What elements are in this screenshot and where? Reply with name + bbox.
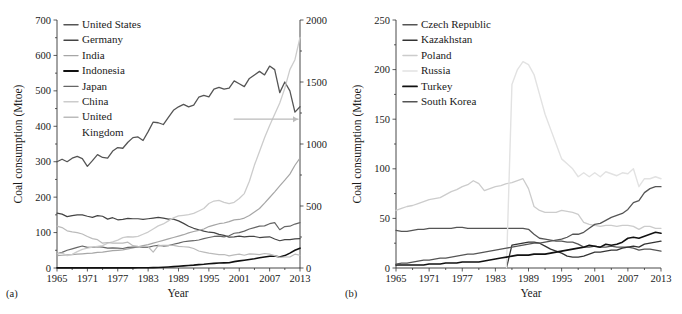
y-right-tick-label: 2000 [306,15,327,26]
series-line-india [57,158,300,255]
chart-a-svg: 0100200300400500600700050010001500200019… [0,0,341,314]
x-tick-label: 2007 [259,273,280,284]
chart-b-svg: 0501001502002501965197119771983198919952… [341,0,682,314]
x-tick-label: 2001 [229,273,250,284]
x-tick-label: 1971 [419,273,440,284]
panel-tag: (b) [345,288,358,300]
series-line-poland [396,179,661,230]
y-axis-title: Coal consumption (Mtoe) [351,84,364,203]
y-right-tick-label: 500 [306,201,322,212]
x-tick-label: 1989 [168,273,189,284]
y-tick-label: 500 [35,85,51,96]
y-tick-label: 300 [35,156,51,167]
x-tick-label: 1983 [485,273,506,284]
y-tick-label: 400 [35,121,51,132]
legend-label-united-kingdom: United [82,110,112,122]
series-line-russia [506,62,661,268]
y-right-tick-label: 1000 [306,139,327,150]
y-tick-label: 0 [46,263,51,274]
legend-label-germany: Germany [82,33,123,45]
legend-label-poland: Poland [421,49,452,61]
x-axis-title: Year [167,287,188,299]
y-tick-label: 100 [374,163,390,174]
legend-label-india: India [82,49,105,61]
legend-label-japan: Japan [82,80,108,92]
legend-label-turkey: Turkey [421,80,453,92]
x-tick-label: 1965 [386,273,407,284]
legend-label-czech-republic: Czech Republic [421,18,491,30]
y-tick-label: 0 [385,263,390,274]
legend-label-south-korea: South Korea [421,95,476,107]
chart-panel-b: 0501001502002501965197119771983198919952… [341,0,682,314]
right-axis-arrow-head [293,116,298,122]
y-tick-label: 600 [35,50,51,61]
x-tick-label: 1971 [77,273,98,284]
y-tick-label: 100 [35,227,51,238]
x-tick-label: 2013 [651,273,672,284]
x-tick-label: 1965 [47,273,68,284]
x-tick-label: 1995 [198,273,219,284]
x-tick-label: 1989 [518,273,539,284]
legend-label-russia: Russia [421,64,450,76]
legend-label-indonesia: Indonesia [82,64,125,76]
y-tick-label: 250 [374,15,390,26]
y-right-tick-label: 1500 [306,77,327,88]
y-axis-title: Coal consumption (Mtoe) [12,84,25,203]
y-tick-label: 200 [374,64,390,75]
panel-tag: (a) [6,288,18,300]
y-tick-label: 150 [374,114,390,125]
x-tick-label: 1995 [551,273,572,284]
series-line-czech-republic [396,227,661,251]
x-tick-label: 2001 [584,273,605,284]
x-tick-label: 1977 [107,273,128,284]
y-right-tick-label: 0 [306,263,311,274]
x-tick-label: 1977 [452,273,473,284]
chart-panel-a: 0100200300400500600700050010001500200019… [0,0,341,314]
legend-label-china: China [82,95,108,107]
legend-label-united-states: United States [82,18,141,30]
x-tick-label: 2013 [290,273,311,284]
y-tick-label: 700 [35,15,51,26]
legend-label-kazakhstan: Kazakhstan [421,33,473,45]
x-tick-label: 1983 [138,273,159,284]
y-tick-label: 50 [380,213,391,224]
y-tick-label: 200 [35,192,51,203]
series-line-indonesia [57,248,300,268]
legend-label-united-kingdom-2: Kingdom [82,126,124,138]
x-axis-title: Year [520,287,541,299]
coal-consumption-figure: 0100200300400500600700050010001500200019… [0,0,682,314]
x-tick-label: 2007 [617,273,638,284]
